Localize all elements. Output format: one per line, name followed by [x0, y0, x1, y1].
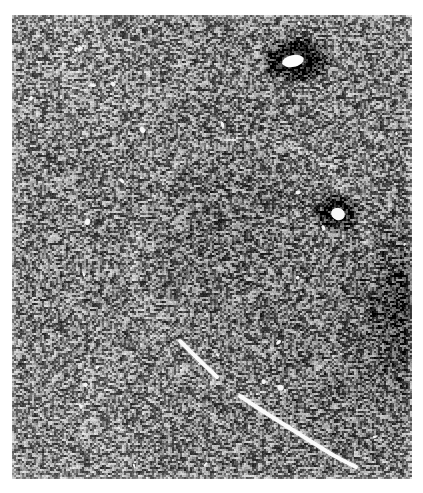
feature-overlay-layer [12, 15, 412, 479]
micrograph-plate [12, 15, 412, 479]
screenshot-root: Grainy high-contrast black-and-white mic… [0, 0, 423, 493]
